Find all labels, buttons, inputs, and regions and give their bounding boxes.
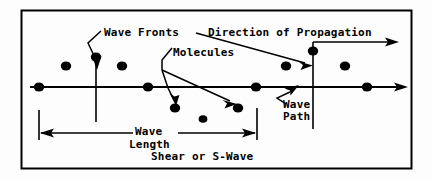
s-wave-diagram: Wave Fronts Direction of Propagation Mol… — [0, 0, 431, 179]
molecules-label: Molecules — [173, 47, 234, 58]
molecule-dot — [91, 52, 101, 61]
molecule-dot — [61, 61, 71, 70]
wave-length-label-line1: Wave — [135, 126, 162, 137]
figure-caption: Shear or S-Wave — [151, 151, 253, 162]
molecule-dots-below-path — [170, 103, 243, 122]
molecule-dot — [362, 82, 372, 91]
wave-length-label-line2: Length — [129, 139, 170, 150]
molecule-dot — [281, 61, 291, 70]
molecule-dot — [143, 82, 153, 91]
wave-fronts-leader-right-arrowhead — [299, 62, 314, 71]
molecules-leader-stem — [162, 48, 172, 70]
molecule-dot — [170, 103, 180, 112]
wave-path-label-line2: Path — [283, 111, 310, 122]
molecule-dot — [34, 82, 44, 91]
direction-of-propagation-label: Direction of Propagation — [208, 27, 372, 38]
molecule-dot — [117, 61, 127, 70]
molecule-dot — [308, 46, 318, 55]
molecule-dot — [251, 82, 261, 91]
molecule-dot — [199, 115, 208, 123]
wave-fronts-label: Wave Fronts — [104, 27, 179, 38]
molecule-dot — [340, 61, 350, 70]
wave-path-label-line1: Wave — [283, 99, 310, 110]
molecule-dot — [233, 103, 243, 112]
